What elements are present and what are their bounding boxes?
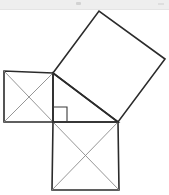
figure-root bbox=[0, 0, 169, 195]
pythagorean-figure bbox=[0, 0, 169, 195]
right-triangle-group bbox=[53, 73, 118, 122]
square-diagonals-group bbox=[4, 71, 119, 190]
right-angle-marker bbox=[53, 107, 67, 121]
squares-group bbox=[4, 11, 165, 190]
leg-square-bottom-diagonal bbox=[52, 122, 118, 190]
hypotenuse-square bbox=[53, 11, 165, 122]
leg-square-bottom-diagonal bbox=[53, 122, 119, 190]
right-triangle bbox=[53, 73, 118, 122]
right-angle-marker-group bbox=[53, 107, 67, 121]
